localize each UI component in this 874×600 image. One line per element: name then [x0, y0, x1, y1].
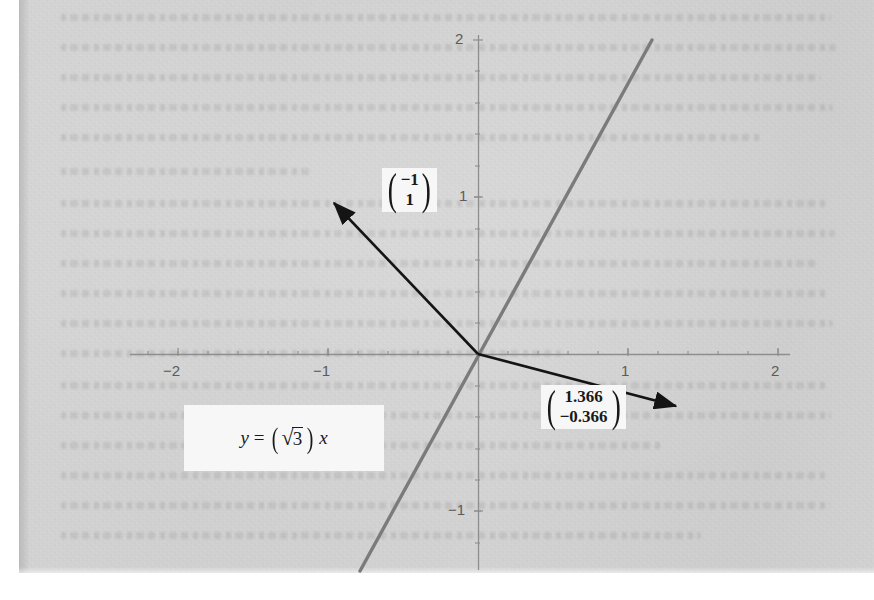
equation-y: y: [240, 427, 248, 449]
vector-label-1366-minus0366: ( 1.366 −0.366 ): [541, 385, 626, 429]
y-tick-label-minus-1: −1: [448, 501, 465, 518]
figure-page: −2 −1 1 2 2 1 −1 ( −1 1 ) ( 1.366 −0.366…: [0, 0, 874, 600]
vector-components-1: −1 1: [400, 170, 420, 210]
vector-component-bottom: 1: [405, 190, 413, 210]
equation-equals: =: [249, 427, 270, 449]
line-y-equals-sqrt3-x: [360, 40, 652, 571]
radicand: 3: [292, 427, 304, 450]
left-paren-glyph: (: [388, 173, 397, 207]
vector-arrow-minus1-1: [334, 203, 478, 354]
right-paren-glyph: ): [422, 173, 431, 207]
line-equation-label: y = ( √3 ) x: [184, 405, 384, 471]
vector-components-2: 1.366 −0.366: [559, 387, 609, 427]
y-axis-minor-ticks: [474, 71, 481, 543]
x-tick-label-minus-1: −1: [313, 362, 330, 379]
equation-right-paren: ): [307, 426, 314, 450]
left-paren-glyph: (: [547, 390, 556, 424]
right-paren-glyph: ): [611, 390, 620, 424]
vector-label-minus1-1: ( −1 1 ): [382, 168, 437, 212]
y-tick-label-2: 2: [455, 30, 463, 47]
cartesian-plot: [0, 0, 874, 600]
square-root-icon: √3: [280, 427, 304, 450]
equation-x: x: [315, 427, 327, 449]
vector-component-top: −1: [401, 170, 419, 190]
x-tick-label-minus-2: −2: [163, 362, 180, 379]
y-tick-label-1: 1: [459, 187, 467, 204]
equation-left-paren: (: [271, 426, 278, 450]
x-tick-label-2: 2: [771, 362, 779, 379]
vector-component-top: 1.366: [565, 387, 603, 407]
vector-component-bottom: −0.366: [560, 407, 608, 427]
x-tick-label-1: 1: [621, 362, 629, 379]
